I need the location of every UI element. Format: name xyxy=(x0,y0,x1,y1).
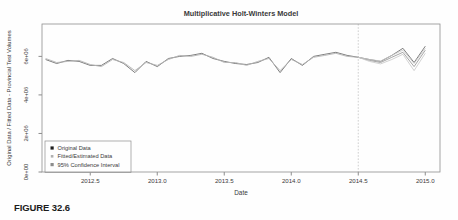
legend-label-0: Original Data xyxy=(58,145,92,151)
x-tick-label-5: 2015.0 xyxy=(416,177,435,184)
y-tick-label-3: 6e+06 xyxy=(23,48,29,64)
legend-marker-2 xyxy=(51,163,54,166)
x-tick-label-1: 2013.0 xyxy=(148,177,167,184)
fitted-estimated-data-line xyxy=(46,53,359,70)
x-tick-label-3: 2014.0 xyxy=(282,177,301,184)
chart-title: Multiplicative Holt-Winters Model xyxy=(184,9,299,18)
x-tick-label-0: 2012.5 xyxy=(81,177,100,184)
figure-32-6: Multiplicative Holt-Winters Model 2012.5… xyxy=(0,0,458,220)
legend-marker-1 xyxy=(51,155,54,158)
y-tick-label-1: 2e+06 xyxy=(23,125,29,141)
plot-layer: 2012.52013.02013.52014.02014.52015.00e+0… xyxy=(23,24,435,184)
y-axis-label: Original Data / Fitted Data - Provincial… xyxy=(6,30,12,165)
figure-caption: FIGURE 32.6 xyxy=(14,202,70,213)
x-tick-label-4: 2014.5 xyxy=(349,177,368,184)
x-axis-label: Date xyxy=(234,189,248,196)
y-tick-label-2: 4e+06 xyxy=(23,87,29,103)
forecast-line xyxy=(358,50,425,66)
legend-marker-0 xyxy=(51,146,54,149)
legend-label-2: 95% Confidence Interval xyxy=(58,162,120,168)
y-tick-label-0: 0e+00 xyxy=(23,164,29,180)
holt-winters-chart: Multiplicative Holt-Winters Model 2012.5… xyxy=(0,0,458,200)
x-tick-label-2: 2013.5 xyxy=(215,177,234,184)
legend-label-1: Fitted/Estimated Data xyxy=(58,153,114,159)
